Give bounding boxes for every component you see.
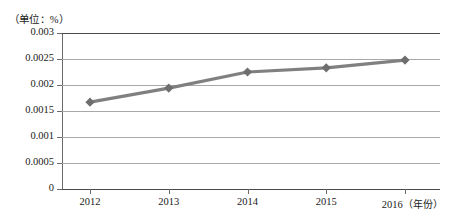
data-point-marker [322, 63, 331, 72]
series-line-layer [0, 0, 460, 222]
data-point-marker [400, 55, 409, 64]
y-axis-tick [57, 189, 62, 190]
y-axis-tick [57, 137, 62, 138]
x-axis-tick [405, 189, 406, 194]
y-axis-tick [57, 163, 62, 164]
y-axis-tick [57, 85, 62, 86]
series-line [90, 60, 405, 102]
x-axis-tick [248, 189, 249, 194]
data-point-marker [164, 84, 173, 93]
data-point-marker [85, 98, 94, 107]
x-axis-tick [90, 189, 91, 194]
line-chart: （单位：%） 0.0030.00250.0020.00150.0010.0005… [0, 0, 460, 222]
y-axis-tick [57, 33, 62, 34]
x-axis-tick [169, 189, 170, 194]
y-axis-tick [57, 59, 62, 60]
x-axis-tick [326, 189, 327, 194]
data-point-marker [243, 67, 252, 76]
y-axis-tick [57, 111, 62, 112]
